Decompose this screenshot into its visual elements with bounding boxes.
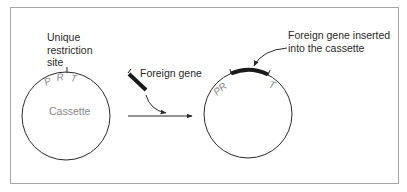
promoter-letter-r: R [56, 71, 65, 83]
cloning-diagram: Unique restriction site P R T Cassette F… [0, 0, 407, 192]
foreign-gene-end-tick [128, 69, 131, 73]
promoter-letter-p: P [42, 75, 53, 88]
pr-label: PR [211, 80, 229, 97]
foreign-gene-label: Foreign gene [140, 67, 202, 79]
inserted-label-line2: into the cassette [288, 42, 365, 54]
promoter-letter-t: T [70, 72, 79, 84]
t-label: T [267, 79, 277, 92]
foreign-gene-insertion: Foreign gene [128, 67, 202, 116]
restriction-label-line1: Unique [47, 31, 80, 43]
svg-text:Foreign gene inserted: Foreign gene inserted [288, 29, 390, 41]
insertion-curved-arrow [146, 95, 166, 113]
svg-text:Unique: Unique [47, 31, 80, 43]
cassette-label: Cassette [49, 105, 91, 117]
svg-text:into the cassette: into the cassette [288, 42, 365, 54]
callout-arrow [254, 48, 287, 66]
recombinant-plasmid: PR T Foreign gene inserted into the cass… [204, 29, 390, 158]
restriction-label-line2: restriction [47, 44, 93, 56]
restriction-label-line3: site [47, 56, 64, 68]
svg-text:restriction: restriction [47, 44, 93, 56]
cassette-plasmid: Unique restriction site P R T Cassette [22, 31, 110, 160]
inserted-gene-arc [231, 70, 268, 75]
svg-text:site: site [47, 56, 64, 68]
inserted-label-line1: Foreign gene inserted [288, 29, 390, 41]
